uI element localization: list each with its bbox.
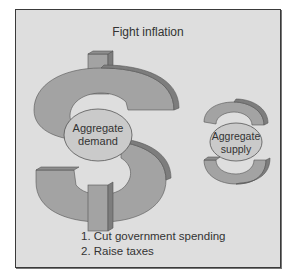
label-line: Aggregate [210, 130, 262, 143]
label-line: demand [64, 135, 132, 148]
step-item: 2. Raise taxes [81, 244, 225, 259]
policy-steps-list: 1. Cut government spending 2. Raise taxe… [81, 229, 225, 259]
aggregate-supply-label: Aggregate supply [210, 130, 262, 156]
step-item: 1. Cut government spending [81, 229, 225, 244]
label-line: Aggregate [64, 122, 132, 135]
diagram-frame: Fight inflation [15, 9, 281, 268]
label-line: supply [210, 143, 262, 156]
aggregate-demand-label: Aggregate demand [64, 122, 132, 148]
